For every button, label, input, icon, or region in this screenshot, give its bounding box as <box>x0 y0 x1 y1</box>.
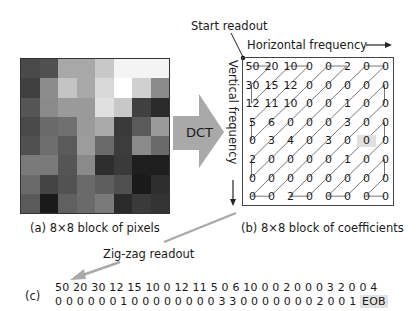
coefficient-cell: 10 <box>281 98 300 110</box>
coefficient-cell: 0 <box>376 191 395 203</box>
coefficient-cell: 0 <box>357 80 376 92</box>
eob-marker: EOB <box>360 295 388 308</box>
coefficient-cell: 4 <box>281 135 300 147</box>
sequence-line-1: 50 20 30 12 15 10 0 12 11 5 0 6 10 0 0 2… <box>55 281 378 294</box>
coefficient-cell: 0 <box>300 117 319 129</box>
coefficient-cell: 50 <box>243 61 262 73</box>
coefficient-cell: 20 <box>262 61 281 73</box>
horizontal-frequency-label: Horizontal frequency <box>247 38 367 52</box>
caption-b: (b) 8×8 block of coefficients <box>241 221 404 235</box>
coefficient-cell: 12 <box>243 98 262 110</box>
coefficient-cell: 3 <box>262 135 281 147</box>
zigzag-readout-label: Zig-zag readout <box>103 247 194 261</box>
coefficient-cell: 0 <box>243 173 262 185</box>
coefficient-cell: 0 <box>281 173 300 185</box>
coefficient-cell: 0 <box>357 135 376 147</box>
coefficient-cell: 0 <box>300 191 319 203</box>
coefficient-cell: 6 <box>262 117 281 129</box>
coefficient-cell: 0 <box>338 191 357 203</box>
vertical-frequency-label: Vertical frequency <box>226 60 240 164</box>
coefficient-cell: 15 <box>262 80 281 92</box>
coefficient-cell: 0 <box>319 173 338 185</box>
coefficient-cell: 0 <box>357 154 376 166</box>
coefficient-cell: 0 <box>357 173 376 185</box>
coefficient-cell: 0 <box>376 173 395 185</box>
coefficient-cell: 0 <box>319 154 338 166</box>
coefficient-cell: 3 <box>338 117 357 129</box>
coefficient-cell: 0 <box>319 98 338 110</box>
coefficient-cell: 0 <box>262 154 281 166</box>
coefficient-cell: 0 <box>319 191 338 203</box>
coefficient-cell: 0 <box>338 135 357 147</box>
coefficient-cell: 12 <box>281 80 300 92</box>
coefficient-cell: 3 <box>319 135 338 147</box>
coefficient-cell: 30 <box>243 80 262 92</box>
coefficient-cell: 2 <box>338 61 357 73</box>
start-readout-label: Start readout <box>191 19 267 33</box>
coefficient-cell: 2 <box>281 191 300 203</box>
coefficient-cell: 0 <box>262 173 281 185</box>
coefficient-cell: 0 <box>319 61 338 73</box>
coefficient-cell: 0 <box>338 80 357 92</box>
coefficient-cell: 0 <box>262 191 281 203</box>
zigzag-arrow-head-icon <box>70 269 86 280</box>
coefficient-cell: 0 <box>243 191 262 203</box>
coefficient-cell: 0 <box>376 154 395 166</box>
coefficient-cell: 0 <box>376 117 395 129</box>
coefficient-cell: 2 <box>243 154 262 166</box>
dct-label: DCT <box>186 125 213 140</box>
coefficient-cell: 0 <box>319 80 338 92</box>
sequence-line-2-values: 0 0 0 0 0 0 1 0 0 0 0 0 0 0 0 3 3 0 0 0 … <box>55 295 356 308</box>
coefficient-cell: 0 <box>357 61 376 73</box>
coefficient-cell: 0 <box>376 98 395 110</box>
coefficient-cell: 1 <box>338 154 357 166</box>
coefficient-cell: 0 <box>243 135 262 147</box>
coefficient-cell: 0 <box>357 117 376 129</box>
coefficient-cell: 0 <box>338 173 357 185</box>
coefficient-cell: 0 <box>376 80 395 92</box>
coefficient-cell: 1 <box>338 98 357 110</box>
sequence-line-2: 0 0 0 0 0 0 1 0 0 0 0 0 0 0 0 3 3 0 0 0 … <box>55 295 388 308</box>
coefficient-cell: 0 <box>357 98 376 110</box>
coefficient-cell: 0 <box>300 135 319 147</box>
coefficient-cell: 0 <box>300 80 319 92</box>
coefficient-cell: 0 <box>300 98 319 110</box>
coefficient-block: 5020100020030151200000121110001005600030… <box>242 57 394 206</box>
coefficient-cell: 10 <box>281 61 300 73</box>
caption-c: (c) <box>25 289 40 303</box>
coefficient-cell: 0 <box>281 117 300 129</box>
coefficient-cell: 0 <box>357 191 376 203</box>
coefficient-cell: 0 <box>300 173 319 185</box>
coefficient-cell: 0 <box>376 135 395 147</box>
coefficient-cell: 0 <box>300 61 319 73</box>
coefficient-cell: 0 <box>319 117 338 129</box>
coefficient-cell: 11 <box>262 98 281 110</box>
coefficient-cell: 5 <box>243 117 262 129</box>
coefficient-cell: 0 <box>376 61 395 73</box>
coefficient-cell: 0 <box>300 154 319 166</box>
coefficient-cell: 0 <box>281 154 300 166</box>
